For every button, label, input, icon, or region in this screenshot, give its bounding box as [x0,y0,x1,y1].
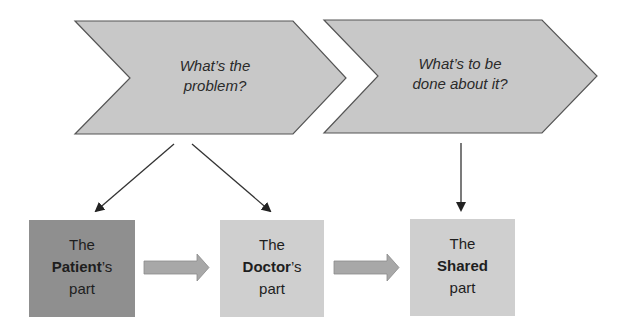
chevron-action-line1: What’s to be [390,54,530,74]
box-patient-line3: part [29,278,135,300]
box-patient-label: The Patient’s part [29,234,135,300]
box-doctor-line2: Doctor’s [220,256,324,278]
box-shared-line1: The [410,233,515,255]
chevron-problem-label: What’s the problem? [150,56,280,96]
box-shared-line3: part [410,277,515,299]
block-arrow-doctor-to-shared [334,254,399,281]
block-arrow-patient-to-doctor [144,254,209,281]
arrow-to-patient [96,144,174,211]
box-doctor-label: The Doctor’s part [220,234,324,300]
box-shared-bold: Shared [437,257,488,274]
chevron-problem-line1: What’s the [150,56,280,76]
box-patient-bold: Patient [52,258,102,275]
chevron-problem-line2: problem? [150,76,280,96]
box-shared-label: The Shared part [410,233,515,299]
chevron-action-line2: done about it? [390,74,530,94]
box-doctor-line1: The [220,234,324,256]
box-patient-suffix: ’s [102,258,113,275]
chevron-action-label: What’s to be done about it? [390,54,530,94]
box-patient-line1: The [29,234,135,256]
box-doctor-bold: Doctor [243,258,291,275]
box-patient-line2: Patient’s [29,256,135,278]
box-doctor-line3: part [220,278,324,300]
arrow-to-doctor [192,144,270,211]
box-shared-line2: Shared [410,255,515,277]
box-doctor-suffix: ’s [291,258,302,275]
